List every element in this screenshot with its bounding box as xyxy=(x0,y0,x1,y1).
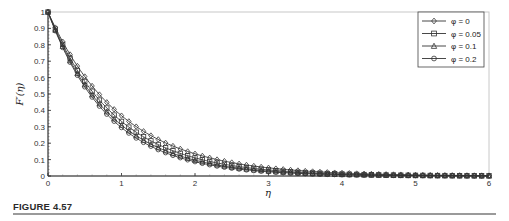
x-tick-label: 0 xyxy=(46,179,51,188)
y-tick-label: 0.4 xyxy=(34,106,46,115)
y-axis-label: F′(η) xyxy=(14,82,25,106)
figure-caption: FIGURE 4.57 xyxy=(13,201,72,212)
y-tick-label: 0.9 xyxy=(34,24,46,33)
chart: 00.10.20.30.40.50.60.70.80.91 0123456 η … xyxy=(0,0,509,221)
y-tick-label: 0.5 xyxy=(34,90,46,99)
x-tick-label: 2 xyxy=(193,179,198,188)
y-tick-label: 0.8 xyxy=(34,41,46,50)
x-tick-label: 4 xyxy=(340,179,345,188)
x-tick-label: 1 xyxy=(119,179,124,188)
legend-label: φ = 0.2 xyxy=(451,55,477,64)
x-axis-label: η xyxy=(265,187,271,198)
y-tick-label: 0.3 xyxy=(34,123,46,132)
legend-label: φ = 0.1 xyxy=(451,42,477,51)
legend: φ = 0φ = 0.05φ = 0.1φ = 0.2 xyxy=(418,12,484,67)
x-tick-label: 5 xyxy=(413,179,418,188)
x-tick-label: 6 xyxy=(487,179,492,188)
legend-label: φ = 0 xyxy=(451,17,470,26)
y-tick-label: 0.1 xyxy=(34,156,46,165)
y-tick-label: 0.6 xyxy=(34,74,46,83)
y-tick-label: 1 xyxy=(41,8,46,17)
legend-label: φ = 0.05 xyxy=(451,30,481,39)
y-tick-label: 0.7 xyxy=(34,57,46,66)
caption-divider xyxy=(13,213,496,215)
y-tick-label: 0.2 xyxy=(34,139,46,148)
